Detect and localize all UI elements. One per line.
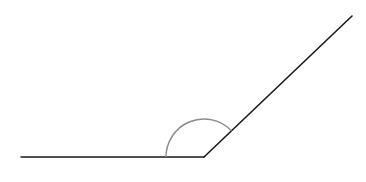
angle-arc-marker — [166, 119, 231, 157]
angle-diagram — [0, 0, 366, 182]
angle-ray-diagonal — [204, 16, 352, 157]
